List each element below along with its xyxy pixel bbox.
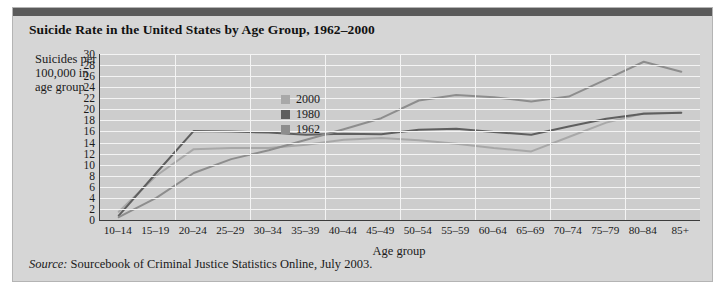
x-tick-label: 30–34 xyxy=(254,224,282,236)
plot-area-wrapper: 024681012141618202224262830 10–1415–1920… xyxy=(99,54,699,220)
vertical-gridline xyxy=(625,54,626,220)
x-tick-label: 75–79 xyxy=(591,224,619,236)
x-tick-label: 10–14 xyxy=(104,224,132,236)
x-tick-label: 70–74 xyxy=(554,224,582,236)
x-tick-label: 80–84 xyxy=(629,224,657,236)
legend-swatch-icon xyxy=(281,110,290,119)
legend-label: 1962 xyxy=(296,123,320,135)
y-tick-label: 16 xyxy=(84,126,96,137)
y-tick-label: 24 xyxy=(84,82,96,93)
x-tick-label: 45–49 xyxy=(366,224,394,236)
figure-panel: Suicide Rate in the United States by Age… xyxy=(12,7,713,282)
vertical-gridline xyxy=(325,54,326,220)
y-tick-label: 2 xyxy=(89,203,95,214)
x-tick-label: 40–44 xyxy=(329,224,357,236)
y-tick-label: 14 xyxy=(84,137,96,148)
y-tick-label: 6 xyxy=(89,181,95,192)
legend-item-1980: 1980 xyxy=(281,107,361,121)
legend-swatch-icon xyxy=(281,125,290,134)
y-tick-label: 18 xyxy=(84,115,96,126)
vertical-gridline xyxy=(550,54,551,220)
legend: 200019801962 xyxy=(281,92,361,137)
y-tick-label: 12 xyxy=(84,148,96,159)
chart-title: Suicide Rate in the United States by Age… xyxy=(29,22,375,38)
y-axis-tick-labels: 024681012141618202224262830 xyxy=(69,54,95,220)
legend-item-1962: 1962 xyxy=(281,122,361,136)
x-tick-label: 85+ xyxy=(672,224,690,236)
y-tick-label: 28 xyxy=(84,60,96,71)
y-tick-label: 0 xyxy=(89,215,95,226)
vertical-gridline xyxy=(250,54,251,220)
source-text: Sourcebook of Criminal Justice Statistic… xyxy=(67,257,372,271)
legend-label: 1980 xyxy=(296,108,320,120)
x-tick-label: 65–69 xyxy=(516,224,544,236)
vertical-gridline xyxy=(175,54,176,220)
x-tick-label: 60–64 xyxy=(479,224,507,236)
y-tick-label: 26 xyxy=(84,71,96,82)
x-tick-label: 20–24 xyxy=(179,224,207,236)
x-tick-label: 15–19 xyxy=(141,224,169,236)
x-axis-tick-labels: 10–1415–1920–2425–2930–3435–3940–4445–49… xyxy=(99,224,699,240)
vertical-gridline xyxy=(475,54,476,220)
legend-item-2000: 2000 xyxy=(281,92,361,106)
source-label: Source: xyxy=(29,257,67,271)
y-tick-label: 10 xyxy=(84,159,96,170)
plot-area xyxy=(99,54,700,221)
x-tick-label: 50–54 xyxy=(404,224,432,236)
y-tick-label: 4 xyxy=(89,192,95,203)
x-tick-label: 35–39 xyxy=(291,224,319,236)
y-tick-label: 30 xyxy=(84,49,96,60)
x-tick-label: 55–59 xyxy=(441,224,469,236)
legend-swatch-icon xyxy=(281,95,290,104)
figure-top-rule xyxy=(13,8,712,16)
x-tick-label: 25–29 xyxy=(216,224,244,236)
source-note: Source: Sourcebook of Criminal Justice S… xyxy=(29,257,372,272)
vertical-gridline xyxy=(400,54,401,220)
y-tick-label: 22 xyxy=(84,93,96,104)
y-tick-label: 8 xyxy=(89,170,95,181)
y-tick-label: 20 xyxy=(84,104,96,115)
legend-label: 2000 xyxy=(296,93,320,105)
